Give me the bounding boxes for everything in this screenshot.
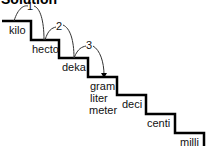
arrow-label-3: 3	[86, 40, 92, 51]
step-meter: meter	[89, 105, 117, 116]
staircase-diagram	[0, 0, 206, 148]
step-hecto: hecto	[32, 44, 59, 55]
step-deka: deka	[62, 62, 86, 73]
step-deci: deci	[122, 99, 142, 110]
step-liter: liter	[90, 93, 108, 104]
step-centi: centi	[147, 118, 170, 129]
step-gram: gram	[90, 81, 115, 92]
step-milli: milli	[180, 137, 199, 148]
arrow-label-1: 1	[27, 1, 33, 12]
step-kilo: kilo	[9, 25, 26, 36]
arrow-label-2: 2	[56, 21, 62, 32]
